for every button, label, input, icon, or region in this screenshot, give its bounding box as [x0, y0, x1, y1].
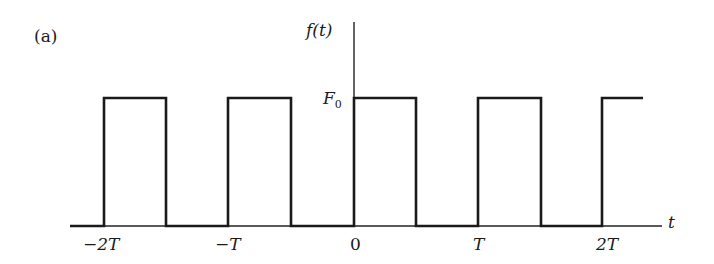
- square-wave-plot: [0, 0, 714, 264]
- tick-zero: 0: [350, 236, 361, 253]
- level-label: F0: [323, 90, 342, 110]
- x-axis-label: t: [668, 214, 675, 231]
- tick-T: T: [473, 236, 484, 253]
- y-axis-label: f(t): [306, 22, 332, 39]
- panel-label: (a): [34, 28, 57, 45]
- tick-minus-T: −T: [215, 236, 241, 253]
- square-wave: [70, 98, 643, 226]
- tick-minus-2T: −2T: [83, 236, 119, 253]
- tick-2T: 2T: [596, 236, 618, 253]
